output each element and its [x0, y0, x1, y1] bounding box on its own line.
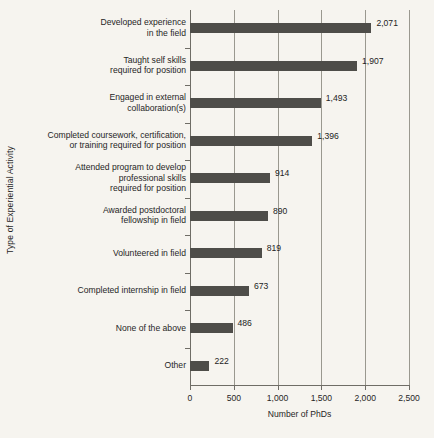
bar[interactable] — [190, 248, 262, 258]
bar-row[interactable] — [190, 123, 409, 160]
bar-value-label: 673 — [254, 281, 268, 291]
y-axis-tick — [185, 198, 190, 199]
x-axis-tick-label: 2,000 — [354, 393, 376, 403]
bar-row[interactable] — [190, 160, 409, 197]
bar-row[interactable] — [190, 198, 409, 235]
bar-value-label: 2,071 — [376, 18, 398, 28]
x-axis-tick-label: 2,500 — [398, 393, 420, 403]
bar[interactable] — [190, 323, 233, 333]
category-label: Completed internship in field — [6, 285, 186, 295]
bar-value-label: 1,907 — [362, 56, 384, 66]
bar-value-label: 914 — [275, 168, 289, 178]
category-label: Engaged in external collaboration(s) — [6, 92, 186, 113]
x-axis-line — [190, 385, 410, 386]
category-label: Awarded postdoctoral fellowship in field — [6, 205, 186, 226]
y-axis-tick — [185, 348, 190, 349]
x-axis-tick-label: 1,500 — [311, 393, 333, 403]
bar-chart: Type of Experiential Activity Developed … — [0, 0, 434, 438]
bar-row[interactable] — [190, 348, 409, 385]
x-axis-tick-label: 0 — [188, 393, 193, 403]
bar-value-label: 1,493 — [326, 93, 348, 103]
y-axis-tick — [185, 123, 190, 124]
bar-row[interactable] — [190, 85, 409, 122]
y-axis-tick — [185, 48, 190, 49]
bar-value-label: 819 — [267, 243, 281, 253]
bar[interactable] — [190, 173, 270, 183]
bar-row[interactable] — [190, 310, 409, 347]
gridline — [409, 10, 410, 385]
bar-row[interactable] — [190, 48, 409, 85]
bar[interactable] — [190, 98, 321, 108]
bar-value-label: 486 — [238, 318, 252, 328]
bar-value-label: 1,396 — [317, 131, 339, 141]
category-label: Attended program to develop professional… — [6, 162, 186, 193]
bar[interactable] — [190, 361, 209, 371]
bar[interactable] — [190, 136, 312, 146]
y-axis-tick — [185, 235, 190, 236]
x-axis-tick — [278, 385, 279, 390]
y-axis-tick — [185, 160, 190, 161]
x-axis-title: Number of PhDs — [190, 409, 409, 419]
category-label: Taught self skills required for position — [6, 55, 186, 76]
bar-row[interactable] — [190, 235, 409, 272]
category-label: Completed coursework, certification, or … — [6, 130, 186, 151]
y-axis-tick — [185, 85, 190, 86]
x-axis-tick-label: 1,000 — [267, 393, 289, 403]
bar-row[interactable] — [190, 273, 409, 310]
category-label: Other — [6, 360, 186, 370]
x-axis-tick — [190, 385, 191, 390]
x-axis-tick — [321, 385, 322, 390]
bar[interactable] — [190, 286, 249, 296]
category-label: Developed experience in the field — [6, 17, 186, 38]
category-label: None of the above — [6, 323, 186, 333]
plot-area — [190, 10, 409, 385]
bar-value-label: 890 — [273, 206, 287, 216]
x-axis-tick — [365, 385, 366, 390]
bar[interactable] — [190, 211, 268, 221]
x-axis-tick — [234, 385, 235, 390]
bar[interactable] — [190, 61, 357, 71]
bar-row[interactable] — [190, 10, 409, 47]
y-axis-tick — [185, 273, 190, 274]
x-axis-tick — [409, 385, 410, 390]
bar[interactable] — [190, 23, 371, 33]
category-label: Volunteered in field — [6, 248, 186, 258]
x-axis-tick-label: 500 — [227, 393, 241, 403]
bar-value-label: 222 — [214, 356, 228, 366]
y-axis-tick — [185, 310, 190, 311]
